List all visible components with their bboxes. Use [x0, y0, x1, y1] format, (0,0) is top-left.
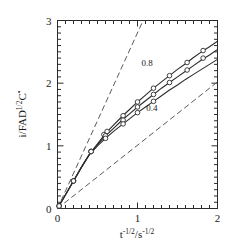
x-tick-label: 0 — [55, 212, 61, 224]
data-point-marker — [105, 129, 110, 134]
data-point-marker — [57, 204, 62, 209]
data-point-marker — [201, 48, 206, 53]
data-point-marker — [89, 149, 94, 154]
y-tick-label: 0 — [46, 203, 52, 215]
y-tick-label: 2 — [46, 77, 52, 89]
data-point-marker — [135, 100, 140, 105]
data-point-marker — [103, 136, 108, 141]
data-point-marker — [121, 122, 126, 127]
data-point-marker — [201, 56, 206, 61]
data-point-marker — [135, 110, 140, 115]
chart-svg: 012 0123 0.80.4 t-1/2/s-1/2 i/FAD1/2C• — [0, 0, 234, 250]
y-tick-label: 3 — [46, 15, 52, 27]
data-point-marker — [71, 179, 76, 184]
y-axis-label: i/FAD1/2C• — [15, 90, 28, 137]
x-tick-label: 1 — [135, 212, 141, 224]
chart-figure: 012 0123 0.80.4 t-1/2/s-1/2 i/FAD1/2C• — [0, 0, 234, 250]
x-tick-label: 2 — [215, 212, 221, 224]
data-point-marker — [167, 73, 172, 78]
y-label-star: • — [15, 90, 24, 93]
svg-text:i/FAD1/2C•: i/FAD1/2C• — [15, 90, 28, 137]
data-point-marker — [167, 80, 172, 85]
y-label-lead: i/FAD — [16, 110, 28, 137]
data-point-marker — [185, 68, 190, 73]
curve-label: 0.4 — [146, 103, 158, 113]
curve-label: 0.8 — [141, 58, 153, 68]
data-point-marker — [185, 60, 190, 65]
data-point-marker — [151, 92, 156, 97]
x-label-exp1: -1/2 — [123, 227, 135, 236]
x-label-exp2: -1/2 — [142, 227, 154, 236]
y-tick-label: 1 — [46, 140, 52, 152]
data-point-marker — [135, 105, 140, 110]
y-label-exp: 1/2 — [15, 100, 24, 110]
data-point-marker — [121, 113, 126, 118]
y-label-tail: C — [16, 93, 28, 100]
data-point-marker — [151, 86, 156, 91]
